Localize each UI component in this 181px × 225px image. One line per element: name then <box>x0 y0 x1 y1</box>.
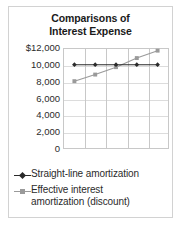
chart-title-line-2: Interest Expense <box>10 25 171 38</box>
y-tick-label: $12,000 <box>8 43 60 53</box>
y-tick-label: 4,000 <box>8 110 60 120</box>
series-straight-line <box>72 62 160 67</box>
y-tick-label: 0 <box>8 144 60 154</box>
chart-title-line-1: Comparisons of <box>10 12 171 25</box>
chart-figure: Comparisons of Interest Expense $12,0001… <box>0 0 181 225</box>
series-layer <box>64 49 168 148</box>
y-tick-label: 8,000 <box>8 77 60 87</box>
legend-label: Straight-line amortization <box>31 168 139 180</box>
y-tick-label: 6,000 <box>8 94 60 104</box>
legend-square-marker-icon <box>14 185 31 198</box>
chart-legend: Straight-line amortizationEffective inte… <box>14 168 170 210</box>
chart-title: Comparisons of Interest Expense <box>10 12 171 38</box>
legend-label: Effective interestamortization (discount… <box>31 184 130 208</box>
y-tick-label: 10,000 <box>8 60 60 70</box>
legend-item: Effective interestamortization (discount… <box>14 184 170 208</box>
y-axis-tick-labels: $12,00010,0008,0006,0004,0002,0000 <box>8 48 60 160</box>
legend-diamond-marker-icon <box>14 169 31 182</box>
legend-item: Straight-line amortization <box>14 168 170 182</box>
plot-block: $12,00010,0008,0006,0004,0002,0000 <box>8 48 174 160</box>
plot-area <box>63 48 169 149</box>
y-tick-label: 2,000 <box>8 127 60 137</box>
